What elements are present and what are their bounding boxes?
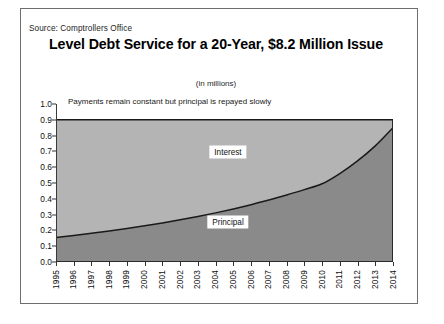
y-tick-mark bbox=[52, 198, 56, 199]
y-tick-label: 0.3 bbox=[40, 210, 52, 220]
x-tick-label: 1998 bbox=[105, 270, 114, 289]
x-tick-label: 2007 bbox=[264, 270, 273, 289]
y-tick-label: 0.9 bbox=[40, 115, 52, 125]
x-tick-label: 2005 bbox=[229, 270, 238, 289]
x-tick-label: 2002 bbox=[176, 270, 185, 289]
y-tick-mark bbox=[52, 135, 56, 136]
y-tick-mark bbox=[52, 230, 56, 231]
x-tick-label: 2014 bbox=[389, 270, 398, 289]
x-tick-mark bbox=[393, 262, 394, 266]
x-tick-label: 1999 bbox=[122, 270, 131, 289]
x-tick-label: 1995 bbox=[52, 270, 61, 289]
y-tick-label: 0.5 bbox=[40, 178, 52, 188]
x-tick-label: 2004 bbox=[211, 270, 220, 289]
y-tick-label: 0.4 bbox=[40, 194, 52, 204]
y-tick-mark bbox=[52, 183, 56, 184]
x-tick-mark bbox=[340, 262, 341, 266]
plot-wrapper: Payments remain constant but principal i… bbox=[0, 0, 444, 324]
x-tick-mark bbox=[91, 262, 92, 266]
x-axis-line bbox=[56, 261, 393, 262]
x-tick-label: 2011 bbox=[335, 270, 344, 288]
plot-right-edge bbox=[392, 120, 393, 262]
x-tick-mark bbox=[198, 262, 199, 266]
x-tick-mark bbox=[162, 262, 163, 266]
x-tick-mark bbox=[287, 262, 288, 266]
plot-area: 1.00.90.80.70.60.50.40.30.20.10.0 199519… bbox=[56, 104, 393, 262]
x-tick-mark bbox=[127, 262, 128, 266]
x-tick-mark bbox=[180, 262, 181, 266]
x-tick-label: 2006 bbox=[247, 270, 256, 289]
x-tick-mark bbox=[145, 262, 146, 266]
y-tick-label: 0.0 bbox=[40, 257, 52, 267]
x-tick-mark bbox=[216, 262, 217, 266]
y-tick-label: 0.6 bbox=[40, 162, 52, 172]
y-tick-label: 0.1 bbox=[40, 241, 52, 251]
y-tick-label: 0.8 bbox=[40, 131, 52, 141]
x-tick-mark bbox=[56, 262, 57, 266]
x-tick-label: 2009 bbox=[300, 270, 309, 289]
x-tick-mark bbox=[375, 262, 376, 266]
x-tick-label: 2001 bbox=[158, 270, 167, 289]
x-tick-label: 2000 bbox=[140, 270, 149, 289]
x-tick-label: 2012 bbox=[353, 270, 362, 289]
y-tick-label: 1.0 bbox=[40, 99, 52, 109]
x-tick-label: 1996 bbox=[69, 270, 78, 289]
y-tick-mark bbox=[52, 246, 56, 247]
x-tick-label: 1997 bbox=[87, 270, 96, 289]
x-tick-label: 2003 bbox=[193, 270, 202, 289]
x-tick-mark bbox=[74, 262, 75, 266]
y-tick-mark bbox=[52, 167, 56, 168]
screenshot-page: Source: Comptrollers Office Level Debt S… bbox=[0, 0, 444, 324]
y-tick-mark bbox=[52, 214, 56, 215]
y-tick-label: 0.7 bbox=[40, 146, 52, 156]
series-label-interest: Interest bbox=[209, 146, 246, 159]
x-tick-mark bbox=[322, 262, 323, 266]
stacked-area-plot bbox=[56, 104, 393, 262]
x-tick-mark bbox=[251, 262, 252, 266]
x-tick-mark bbox=[304, 262, 305, 266]
y-tick-label: 0.2 bbox=[40, 225, 52, 235]
y-tick-mark bbox=[52, 104, 56, 105]
x-tick-label: 2008 bbox=[282, 270, 291, 289]
x-tick-mark bbox=[358, 262, 359, 266]
x-tick-mark bbox=[109, 262, 110, 266]
x-tick-mark bbox=[233, 262, 234, 266]
y-tick-mark bbox=[52, 151, 56, 152]
x-tick-label: 2013 bbox=[371, 270, 380, 289]
x-tick-mark bbox=[269, 262, 270, 266]
y-axis-line bbox=[56, 104, 57, 262]
x-tick-label: 2010 bbox=[318, 270, 327, 289]
series-label-principal: Principal bbox=[207, 216, 248, 229]
y-tick-mark bbox=[52, 119, 56, 120]
